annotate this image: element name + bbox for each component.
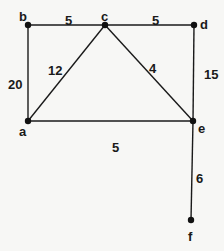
node-label-e: e bbox=[198, 121, 205, 136]
node-e bbox=[190, 118, 196, 124]
edge-weight-c-d: 5 bbox=[152, 13, 159, 28]
edge-weight-a-c: 12 bbox=[48, 63, 62, 78]
node-f bbox=[188, 217, 194, 223]
weighted-graph-diagram: 55201241556abcdef bbox=[0, 0, 224, 251]
node-label-d: d bbox=[200, 17, 208, 32]
edge-d-e bbox=[193, 25, 194, 121]
edge-weight-b-c: 5 bbox=[65, 13, 72, 28]
edge-weight-c-e: 4 bbox=[149, 61, 157, 76]
edge-weight-b-a: 20 bbox=[8, 77, 22, 92]
node-d bbox=[191, 22, 197, 28]
node-label-f: f bbox=[188, 229, 193, 244]
node-label-a: a bbox=[19, 124, 27, 139]
edge-weight-d-e: 15 bbox=[204, 67, 218, 82]
edge-e-f bbox=[191, 121, 193, 220]
edge-weight-a-e: 5 bbox=[112, 140, 119, 155]
graph-canvas: 55201241556abcdef bbox=[0, 0, 224, 251]
node-label-c: c bbox=[101, 9, 108, 24]
edge-a-c bbox=[28, 25, 105, 121]
edge-weight-e-f: 6 bbox=[196, 171, 203, 186]
node-label-b: b bbox=[19, 9, 27, 24]
